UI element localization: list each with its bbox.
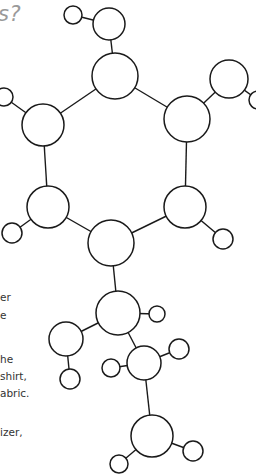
atom-circle [127,346,161,380]
atom-circle [2,223,22,243]
atom-circle [92,53,138,99]
atom-circle [22,104,64,146]
atoms-group [0,6,256,473]
atom-circle [149,306,165,322]
atom-circle [164,186,206,228]
atom-circle [183,441,203,461]
atom-circle [102,359,120,377]
atom-circle [49,322,83,356]
molecule-diagram [0,0,256,475]
atom-circle [64,6,82,24]
atom-circle [27,186,69,228]
atom-circle [131,415,173,457]
atom-circle [0,88,13,106]
atom-circle [93,8,125,40]
atom-circle [88,220,134,266]
atom-circle [110,455,128,473]
atom-circle [60,369,80,389]
atom-circle [213,229,233,249]
atom-circle [164,96,210,142]
atom-circle [169,339,189,359]
atom-circle [210,60,248,98]
atom-circle [96,291,140,335]
